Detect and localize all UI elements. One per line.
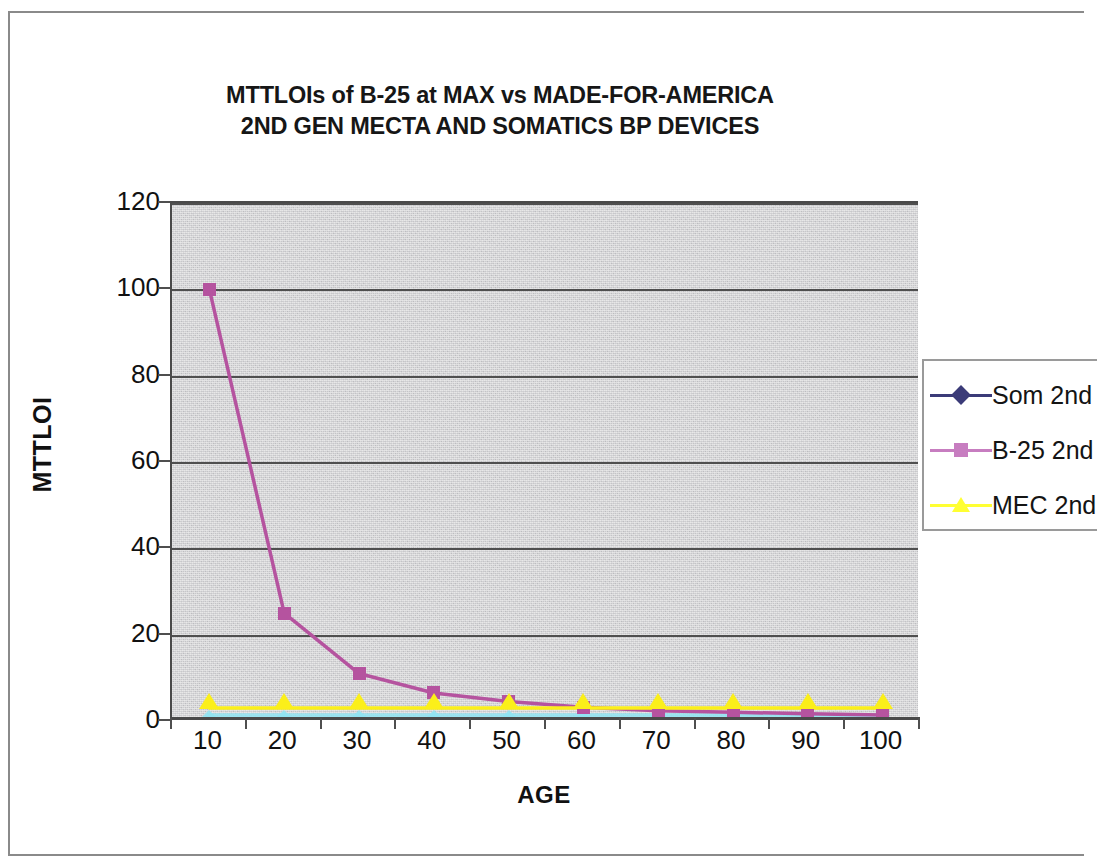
data-point-marker: [723, 693, 743, 709]
x-tick-label: 100: [841, 727, 921, 753]
y-tick-mark: [158, 287, 170, 289]
y-tick-label: 80: [86, 361, 160, 387]
series-polylines: [172, 203, 918, 719]
x-tick-mark: [469, 718, 471, 729]
x-tick-mark: [918, 718, 920, 729]
x-tick-label: 20: [242, 727, 322, 753]
legend-marker-square: [954, 443, 968, 457]
x-tick-mark: [694, 718, 696, 729]
data-point-marker: [199, 693, 219, 709]
legend-marker-triangle: [952, 497, 970, 512]
x-tick-mark: [245, 718, 247, 729]
y-tick-mark: [158, 546, 170, 548]
x-tick-label: 70: [616, 727, 696, 753]
x-tick-label: 10: [167, 727, 247, 753]
y-tick-label: 120: [86, 188, 160, 214]
y-tick-label: 60: [86, 447, 160, 473]
legend-label: Som 2nd: [992, 383, 1092, 408]
x-tick-mark: [320, 718, 322, 729]
data-point-marker: [873, 693, 893, 709]
chart-legend: Som 2ndB-25 2ndMEC 2nd: [922, 359, 1097, 531]
series-line: [209, 289, 882, 715]
y-tick-mark: [158, 201, 170, 203]
legend-swatch: [930, 384, 992, 406]
x-tick-label: 40: [392, 727, 472, 753]
legend-item-mec-2nd[interactable]: MEC 2nd: [924, 485, 1099, 525]
data-point-marker: [203, 283, 216, 296]
x-tick-mark: [843, 718, 845, 729]
plot-area: [170, 201, 918, 719]
legend-label: MEC 2nd: [992, 493, 1096, 518]
y-tick-label: 20: [86, 620, 160, 646]
chart-title: MTTLOIs of B-25 at MAX vs MADE-FOR-AMERI…: [120, 80, 880, 142]
y-tick-mark: [158, 633, 170, 635]
y-axis-title: MTTLOI: [28, 355, 57, 535]
data-point-marker: [648, 693, 668, 709]
chart-title-line-2: 2ND GEN MECTA AND SOMATICS BP DEVICES: [120, 111, 880, 142]
x-tick-label: 30: [317, 727, 397, 753]
legend-swatch: [930, 439, 992, 461]
y-tick-label: 100: [86, 274, 160, 300]
chart-title-line-1: MTTLOIs of B-25 at MAX vs MADE-FOR-AMERI…: [120, 80, 880, 111]
x-tick-label: 50: [467, 727, 547, 753]
x-tick-label: 90: [766, 727, 846, 753]
legend-item-som-2nd[interactable]: Som 2nd: [924, 375, 1099, 415]
y-tick-mark: [158, 719, 170, 721]
x-tick-mark: [544, 718, 546, 729]
data-point-marker: [424, 693, 444, 709]
x-tick-mark: [394, 718, 396, 729]
legend-swatch: [930, 494, 992, 516]
data-point-marker: [573, 693, 593, 709]
data-point-marker: [349, 693, 369, 709]
y-tick-mark: [158, 460, 170, 462]
legend-label: B-25 2nd: [992, 438, 1093, 463]
x-axis-title: AGE: [170, 781, 918, 809]
x-tick-label: 60: [541, 727, 621, 753]
x-tick-mark: [619, 718, 621, 729]
data-point-marker: [278, 607, 291, 620]
data-point-marker: [274, 693, 294, 709]
x-tick-mark: [768, 718, 770, 729]
legend-item-b-25-2nd[interactable]: B-25 2nd: [924, 430, 1099, 470]
x-tick-label: 80: [691, 727, 771, 753]
y-tick-mark: [158, 374, 170, 376]
data-point-marker: [353, 667, 366, 680]
y-tick-label: 40: [86, 533, 160, 559]
data-point-marker: [499, 693, 519, 709]
x-axis-tick-labels: 102030405060708090100: [0, 727, 1089, 767]
legend-marker-diamond: [951, 385, 971, 405]
x-tick-mark: [170, 718, 172, 729]
data-point-marker: [798, 693, 818, 709]
